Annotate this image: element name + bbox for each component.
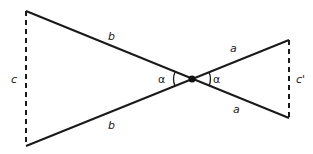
label-a-bottom: a bbox=[233, 103, 240, 116]
side-b-top bbox=[26, 11, 289, 118]
label-a-top: a bbox=[230, 42, 237, 55]
side-b-bottom bbox=[26, 40, 289, 146]
label-b-top: b bbox=[108, 30, 115, 43]
vertex-point bbox=[189, 76, 196, 83]
label-c: c bbox=[11, 73, 17, 86]
label-b-bottom: b bbox=[108, 119, 115, 132]
angle-arc-left bbox=[174, 72, 175, 86]
angle-arc-right bbox=[209, 72, 210, 86]
label-alpha-right: α bbox=[213, 73, 220, 86]
label-c-prime: c' bbox=[296, 73, 305, 86]
diagram-canvas: b b c a a c' α α bbox=[0, 0, 313, 154]
label-alpha-left: α bbox=[158, 73, 165, 86]
